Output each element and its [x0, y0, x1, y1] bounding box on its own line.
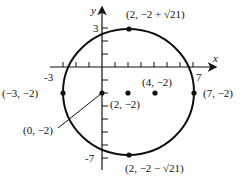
x-tick-label-7: 7 — [196, 71, 202, 83]
point-focus — [152, 90, 157, 95]
x-axis-label: x — [212, 52, 218, 64]
diagram-canvas: x y -3 7 3 -7 (2, −2 + √21) (2, −2 − √21… — [0, 0, 251, 188]
x-tick-label-neg3: -3 — [44, 71, 54, 83]
label-left: (−3, −2) — [2, 87, 39, 100]
point-right — [191, 90, 196, 95]
label-focus: (4, −2) — [142, 76, 172, 89]
points — [60, 26, 196, 157]
point-center — [125, 90, 130, 95]
label-top: (2, −2 + √21) — [126, 8, 185, 21]
leader-line — [58, 93, 102, 128]
label-right: (7, −2) — [203, 87, 233, 100]
label-yint: (0, −2) — [23, 124, 53, 137]
y-tick-label-neg7: -7 — [85, 152, 95, 164]
point-yint — [99, 90, 104, 95]
point-bottom — [126, 152, 131, 157]
point-left — [60, 90, 65, 95]
y-tick-label-3: 3 — [93, 22, 99, 34]
y-axis-label: y — [90, 4, 96, 16]
label-center: (2, −2) — [110, 98, 140, 111]
x-ticks — [63, 62, 193, 67]
point-top — [126, 26, 131, 31]
label-bottom: (2, −2 − √21) — [125, 162, 184, 175]
